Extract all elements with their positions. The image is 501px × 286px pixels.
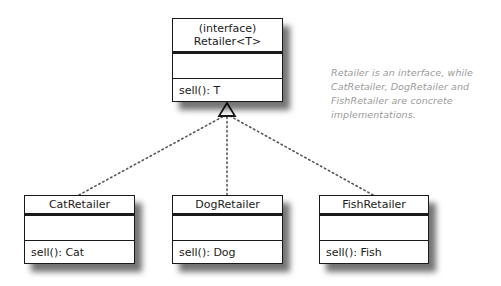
- attributes-section: [25, 216, 134, 241]
- method-sell: sell(): Fish: [326, 246, 382, 259]
- annotation-line: FishRetailer are concrete: [331, 94, 501, 108]
- methods-section: sell(): Fish: [320, 241, 428, 263]
- attributes-section: [173, 54, 282, 79]
- methods-section: sell(): Cat: [25, 241, 134, 263]
- handwritten-annotation: Retailer is an interface, while CatRetai…: [331, 66, 501, 122]
- class-name-section: (interface) Retailer<T>: [173, 19, 282, 54]
- annotation-line: Retailer is an interface, while: [331, 66, 501, 80]
- method-sell: sell(): Cat: [31, 246, 84, 259]
- class-name-section: FishRetailer: [320, 196, 428, 216]
- class-name-section: DogRetailer: [173, 196, 282, 216]
- realization-arrow-icon: [219, 103, 235, 116]
- class-name: DogRetailer: [173, 198, 282, 211]
- class-box-fish-retailer: FishRetailer sell(): Fish: [319, 195, 429, 264]
- method-sell: sell(): T: [179, 84, 220, 97]
- connector-cat: [79, 116, 224, 195]
- class-name-section: CatRetailer: [25, 196, 134, 216]
- methods-section: sell(): Dog: [173, 241, 282, 263]
- stereotype-label: (interface): [173, 22, 282, 35]
- attributes-section: [320, 216, 428, 241]
- class-name: Retailer<T>: [173, 35, 282, 48]
- attributes-section: [173, 216, 282, 241]
- methods-section: sell(): T: [173, 79, 282, 101]
- connector-fish: [230, 116, 373, 195]
- annotation-line: CatRetailer, DogRetailer and: [331, 80, 501, 94]
- class-box-dog-retailer: DogRetailer sell(): Dog: [172, 195, 283, 264]
- class-name: FishRetailer: [320, 198, 428, 211]
- class-name: CatRetailer: [25, 198, 134, 211]
- class-box-retailer: (interface) Retailer<T> sell(): T: [172, 18, 283, 102]
- class-box-cat-retailer: CatRetailer sell(): Cat: [24, 195, 135, 264]
- method-sell: sell(): Dog: [179, 246, 236, 259]
- annotation-line: implementations.: [331, 108, 501, 122]
